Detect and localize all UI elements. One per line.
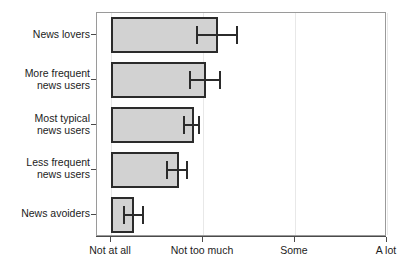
x-tick-label-0: Not at all (89, 244, 130, 256)
gridline-x-3 (387, 13, 388, 235)
error-bar-3 (166, 161, 188, 179)
x-tick-label-2: Some (280, 244, 307, 256)
y-tick-label-0: News lovers (33, 28, 90, 40)
y-tick-mark-1 (91, 79, 96, 80)
x-tick-mark-1 (202, 237, 203, 242)
plot-area (96, 12, 386, 236)
bar-2 (111, 107, 194, 143)
error-bar-cap-right (142, 206, 144, 224)
y-tick-label-1: More frequent news users (25, 67, 90, 91)
x-tick-mark-0 (110, 237, 111, 242)
error-bar-cap-left (166, 161, 168, 179)
error-bar-line (196, 34, 238, 36)
error-bar-line (166, 169, 188, 171)
error-bar-cap-left (183, 116, 185, 134)
x-tick-mark-2 (294, 237, 295, 242)
error-bar-cap-right (219, 71, 221, 89)
error-bar-2 (183, 116, 200, 134)
y-tick-mark-2 (91, 124, 96, 125)
error-bar-cap-right (198, 116, 200, 134)
error-bar-cap-right (236, 26, 238, 44)
y-tick-mark-3 (91, 169, 96, 170)
bar-chart: News loversMore frequent news usersMost … (0, 0, 408, 272)
error-bar-cap-left (196, 26, 198, 44)
y-tick-mark-4 (91, 214, 96, 215)
x-tick-mark-3 (386, 237, 387, 242)
y-tick-mark-0 (91, 34, 96, 35)
error-bar-line (189, 79, 221, 81)
error-bar-1 (189, 71, 221, 89)
error-bar-line (123, 214, 144, 216)
error-bar-4 (123, 206, 144, 224)
x-tick-label-3: A lot (376, 244, 396, 256)
error-bar-cap-right (186, 161, 188, 179)
y-tick-label-2: Most typical news users (35, 112, 90, 136)
error-bar-0 (196, 26, 238, 44)
x-axis-line (96, 236, 386, 237)
x-tick-label-1: Not too much (171, 244, 233, 256)
y-tick-label-3: Less frequent news users (26, 156, 90, 180)
error-bar-cap-left (189, 71, 191, 89)
gridline-x-2 (295, 13, 296, 235)
y-tick-label-4: News avoiders (21, 207, 90, 219)
error-bar-cap-left (123, 206, 125, 224)
